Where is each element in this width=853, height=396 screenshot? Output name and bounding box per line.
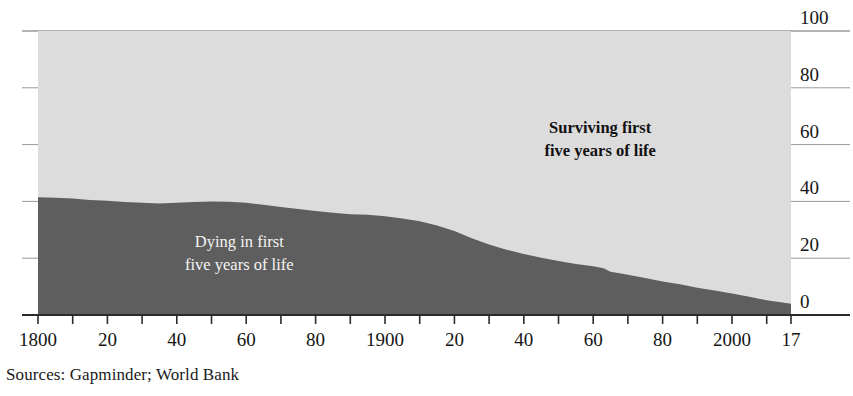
- plot-area-group: [38, 31, 791, 315]
- xtick-labels-group: 180020406080190020406080200017: [19, 329, 801, 350]
- xtick-label-1820: 20: [98, 329, 117, 350]
- xtick-label-1980: 80: [653, 329, 672, 350]
- xtick-label-1860: 60: [237, 329, 256, 350]
- source-note: Sources: Gapminder; World Bank: [6, 365, 239, 385]
- area-chart-figure: 100806040200 180020406080190020406080200…: [0, 0, 853, 396]
- xtick-label-1940: 40: [514, 329, 533, 350]
- ytick-label-40: 40: [800, 177, 819, 198]
- ytick-labels-group: 100806040200: [800, 7, 829, 312]
- chart-canvas: 100806040200 180020406080190020406080200…: [0, 0, 853, 360]
- ytick-label-0: 0: [800, 291, 810, 312]
- xtick-label-1880: 80: [306, 329, 325, 350]
- ytick-label-20: 20: [800, 234, 819, 255]
- ytick-label-80: 80: [800, 64, 819, 85]
- xtick-label-2000: 2000: [713, 329, 751, 350]
- xtick-label-1800: 1800: [19, 329, 57, 350]
- xtick-label-1840: 40: [167, 329, 186, 350]
- axis-group: [22, 315, 850, 324]
- xtick-label-1920: 20: [445, 329, 464, 350]
- ytick-label-60: 60: [800, 121, 819, 142]
- ytick-label-100: 100: [800, 7, 829, 28]
- xtick-label-1900: 1900: [366, 329, 404, 350]
- xtick-label-1960: 60: [584, 329, 603, 350]
- xtick-label-2017: 17: [782, 329, 801, 350]
